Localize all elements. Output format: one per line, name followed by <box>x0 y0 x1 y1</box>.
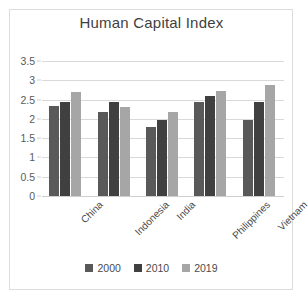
y-axis-tick-label: 1.5 <box>20 132 35 144</box>
x-axis-label-indonesia: Indonesia <box>132 199 170 237</box>
y-axis-tick-label: 3 <box>29 74 35 86</box>
x-axis-label-china: China <box>79 199 105 225</box>
bar-philippines-2000[interactable] <box>194 102 204 197</box>
y-axis-tick-mark <box>37 61 41 62</box>
bar-indonesia-2000[interactable] <box>98 112 108 196</box>
legend-swatch-icon <box>182 264 190 272</box>
legend-label: 2010 <box>146 262 169 274</box>
bar-vietnam-2010[interactable] <box>254 102 264 196</box>
bar-philippines-2010[interactable] <box>205 96 215 196</box>
y-axis-tick-label: 0 <box>29 190 35 202</box>
chart-card: Human Capital Index 00.511.522.533.5 Chi… <box>0 0 303 301</box>
bar-group <box>49 61 81 196</box>
legend-swatch-icon <box>134 264 142 272</box>
y-axis-tick-mark <box>37 138 41 139</box>
bar-china-2000[interactable] <box>49 106 59 196</box>
y-axis-tick-mark <box>37 196 41 197</box>
legend-item-2019[interactable]: 2019 <box>182 262 217 274</box>
bar-indonesia-2010[interactable] <box>109 102 119 196</box>
x-axis-label-philippines: Philippines <box>231 199 273 241</box>
legend-swatch-icon <box>85 264 93 272</box>
y-axis-tick-mark <box>37 176 41 177</box>
y-axis-tick-mark <box>37 80 41 81</box>
legend-item-2010[interactable]: 2010 <box>134 262 169 274</box>
y-axis-tick-label: 3.5 <box>20 55 35 67</box>
legend-label: 2000 <box>97 262 120 274</box>
y-axis-tick-label: 2 <box>29 113 35 125</box>
bar-india-2010[interactable] <box>157 120 167 196</box>
legend-item-2000[interactable]: 2000 <box>85 262 120 274</box>
y-axis-tick-label: 2.5 <box>20 94 35 106</box>
bar-group <box>194 61 226 196</box>
y-axis-tick-label: 1 <box>29 151 35 163</box>
bar-vietnam-2000[interactable] <box>243 120 253 196</box>
y-axis-tick-mark <box>37 118 41 119</box>
legend-label: 2019 <box>194 262 217 274</box>
bar-india-2000[interactable] <box>146 127 156 196</box>
bar-group <box>98 61 130 196</box>
bar-indonesia-2019[interactable] <box>120 107 130 196</box>
y-axis-tick-label: 0.5 <box>20 171 35 183</box>
bar-china-2019[interactable] <box>71 92 81 196</box>
chart-title: Human Capital Index <box>0 14 303 31</box>
gridline <box>42 196 284 197</box>
y-axis-tick-mark <box>37 99 41 100</box>
bar-vietnam-2019[interactable] <box>265 85 275 196</box>
x-axis-labels: ChinaIndonesiaIndiaPhilippinesVietnam <box>42 199 284 257</box>
bar-group <box>146 61 178 196</box>
bar-china-2010[interactable] <box>60 102 70 197</box>
bar-group <box>243 61 275 196</box>
x-axis-label-india: India <box>174 199 197 222</box>
bar-india-2019[interactable] <box>168 112 178 196</box>
bar-philippines-2019[interactable] <box>216 91 226 196</box>
plot-area: 00.511.522.533.5 <box>42 61 284 196</box>
y-axis-tick-mark <box>37 157 41 158</box>
chart-legend: 200020102019 <box>0 262 303 274</box>
